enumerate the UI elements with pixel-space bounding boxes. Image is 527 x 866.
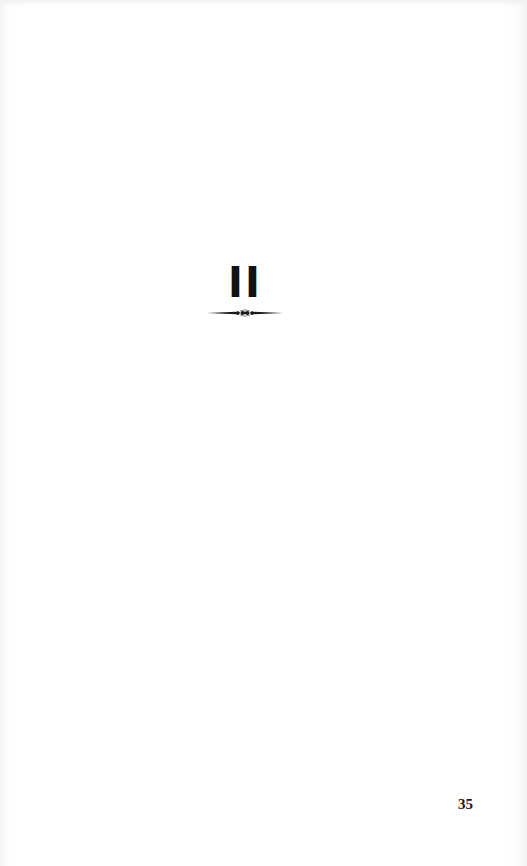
chapter-heading: II (0, 262, 490, 302)
chapter-number: II (228, 261, 262, 303)
page-number: 35 (458, 796, 473, 813)
ornament-divider-icon (206, 307, 284, 319)
page-edge-shadow (0, 0, 527, 6)
book-page: II 35 (0, 0, 527, 866)
